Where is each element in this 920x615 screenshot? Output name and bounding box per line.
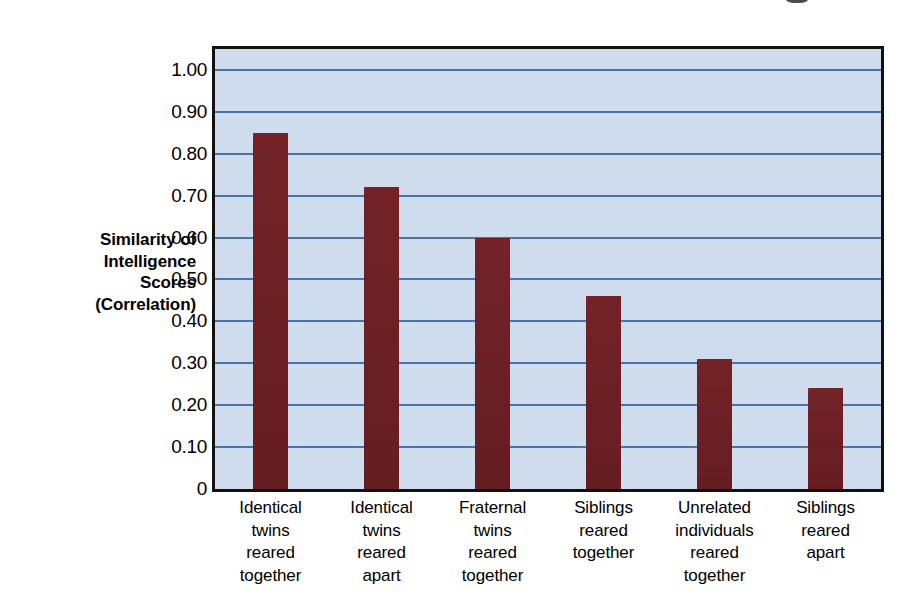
- y-axis-tick-label: 0.80: [0, 143, 207, 165]
- x-axis-category-label-line: apart: [771, 542, 881, 565]
- x-axis-category-label-line: twins: [216, 520, 326, 543]
- x-axis-category-label: Siblingsrearedapart: [771, 497, 881, 565]
- y-axis-tick-label: 0.10: [0, 436, 207, 458]
- gridline: [215, 320, 881, 322]
- x-axis-category-label-line: reared: [438, 542, 548, 565]
- x-axis-category-label-line: Siblings: [771, 497, 881, 520]
- bar: [697, 359, 732, 489]
- x-axis-category-labels: IdenticaltwinsrearedtogetherIdenticaltwi…: [212, 497, 884, 612]
- x-axis-category-label: Siblingsrearedtogether: [549, 497, 659, 565]
- x-axis-category-label-line: Siblings: [549, 497, 659, 520]
- x-axis-category-label: Identicaltwinsrearedtogether: [216, 497, 326, 587]
- x-axis-category-label-line: individuals: [660, 520, 770, 543]
- y-axis-tick-label: 0.70: [0, 185, 207, 207]
- x-axis-category-label: Unrelatedindividualsrearedtogether: [660, 497, 770, 587]
- plot-inner: [215, 49, 881, 489]
- x-axis-category-label: Fraternaltwinsrearedtogether: [438, 497, 548, 587]
- y-axis-tick-labels: 00.100.200.300.400.500.600.700.800.901.0…: [0, 0, 207, 615]
- y-axis-tick-label: 0.90: [0, 101, 207, 123]
- x-axis-category-label-line: twins: [327, 520, 437, 543]
- gridline: [215, 111, 881, 113]
- gridline: [215, 195, 881, 197]
- x-axis-category-label-line: together: [660, 565, 770, 588]
- x-axis-category-label-line: Fraternal: [438, 497, 548, 520]
- y-axis-tick-label: 0.30: [0, 352, 207, 374]
- bar: [586, 296, 621, 489]
- y-axis-tick-label: 0.50: [0, 268, 207, 290]
- x-axis-category-label-line: together: [216, 565, 326, 588]
- gridline: [215, 153, 881, 155]
- gridline: [215, 404, 881, 406]
- x-axis-category-label: Identicaltwinsrearedapart: [327, 497, 437, 587]
- x-axis-category-label-line: reared: [771, 520, 881, 543]
- x-axis-category-label-line: Identical: [327, 497, 437, 520]
- bar: [475, 238, 510, 489]
- bar: [364, 187, 399, 489]
- y-axis-tick-label: 1.00: [0, 59, 207, 81]
- y-axis-tick-label: 0.60: [0, 227, 207, 249]
- y-axis-tick-label: 0.20: [0, 394, 207, 416]
- x-axis-category-label-line: apart: [327, 565, 437, 588]
- x-axis-category-label-line: reared: [549, 520, 659, 543]
- gridline: [215, 446, 881, 448]
- x-axis-category-label-line: reared: [660, 542, 770, 565]
- x-axis-category-label-line: Identical: [216, 497, 326, 520]
- plot-area: [212, 46, 884, 492]
- x-axis-category-label-line: Unrelated: [660, 497, 770, 520]
- bar: [808, 388, 843, 489]
- gridline: [215, 69, 881, 71]
- x-axis-category-label-line: together: [549, 542, 659, 565]
- gridline: [215, 237, 881, 239]
- y-axis-tick-label: 0.40: [0, 310, 207, 332]
- bar: [253, 133, 288, 489]
- clipped-title-artifact: [786, 0, 808, 3]
- x-axis-category-label-line: together: [438, 565, 548, 588]
- gridline: [215, 278, 881, 280]
- x-axis-category-label-line: reared: [216, 542, 326, 565]
- gridline: [215, 362, 881, 364]
- y-axis-tick-label: 0: [0, 478, 207, 500]
- x-axis-category-label-line: reared: [327, 542, 437, 565]
- bar-chart: Similarity ofIntelligenceScores(Correlat…: [0, 0, 920, 615]
- x-axis-category-label-line: twins: [438, 520, 548, 543]
